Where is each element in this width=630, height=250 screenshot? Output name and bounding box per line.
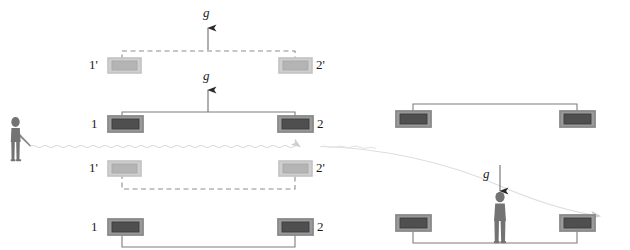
label-2-lower: 2 — [317, 220, 324, 233]
detector-lower-left-right-panel — [396, 215, 431, 231]
detector-1-lower — [108, 219, 143, 235]
g-label-middle: g — [203, 69, 210, 82]
detector-1-prime-lower — [108, 161, 141, 176]
detector-1-upper — [108, 116, 143, 132]
detector-upper-left-right-panel — [396, 111, 431, 127]
g-label-top: g — [203, 6, 210, 19]
detector-1-prime-upper — [108, 58, 141, 73]
detector-2-lower — [278, 219, 313, 235]
detector-upper-right-right-panel — [560, 111, 595, 127]
detector-2-prime-upper — [279, 58, 312, 73]
g-label-down: g — [483, 167, 490, 180]
detector-2-prime-lower — [279, 161, 312, 176]
detector-lower-right-right-panel — [560, 215, 595, 231]
label-2-prime-upper: 2' — [316, 58, 325, 71]
label-1-lower: 1 — [91, 220, 98, 233]
label-2-upper: 2 — [317, 117, 324, 130]
label-1-upper: 1 — [91, 117, 98, 130]
label-1-prime-upper: 1' — [89, 58, 98, 71]
label-1-prime-lower: 1' — [89, 161, 98, 174]
detector-2-upper — [278, 116, 313, 132]
label-2-prime-lower: 2' — [316, 161, 325, 174]
